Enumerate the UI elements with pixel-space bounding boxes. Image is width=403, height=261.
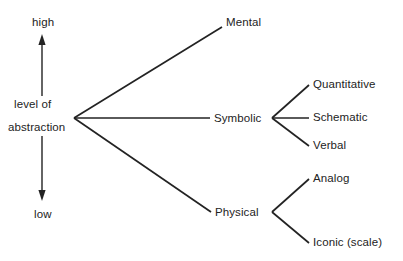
node-mental: Mental	[226, 16, 261, 29]
axis-label-low: low	[34, 208, 52, 221]
axis-arrow-up	[38, 34, 45, 96]
root-branch-lines	[74, 27, 222, 212]
axis-arrow-down	[38, 136, 45, 201]
node-verbal: Verbal	[313, 139, 346, 152]
axis-caption-line2: abstraction	[8, 121, 65, 134]
node-iconic-scale: Iconic (scale)	[313, 236, 382, 249]
node-schematic: Schematic	[313, 111, 368, 124]
node-analog: Analog	[313, 172, 349, 185]
symbolic-branch-lines	[272, 85, 309, 146]
axis-caption-line1: level of	[14, 98, 51, 111]
node-symbolic: Symbolic	[214, 112, 261, 125]
node-physical: Physical	[215, 206, 259, 219]
node-quantitative: Quantitative	[313, 78, 376, 91]
abstraction-tree-diagram: high low level of abstraction Mental Sym…	[0, 0, 403, 261]
physical-branch-lines	[272, 179, 309, 243]
axis-label-high: high	[32, 16, 54, 29]
